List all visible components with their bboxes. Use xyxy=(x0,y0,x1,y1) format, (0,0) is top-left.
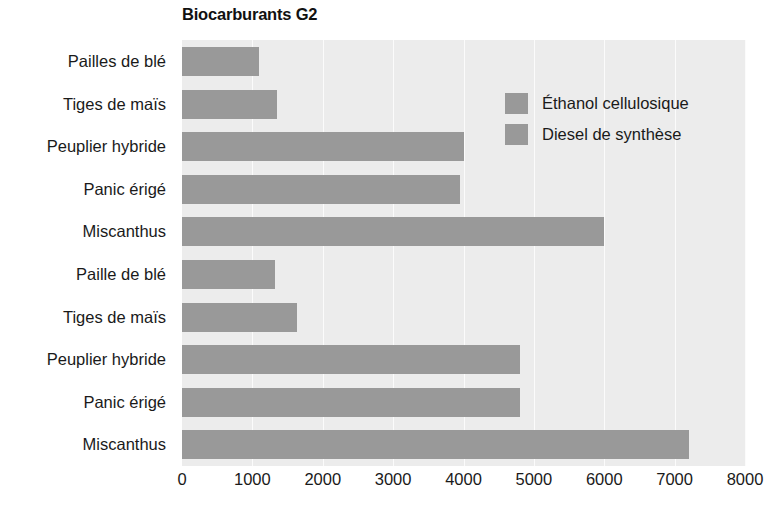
bar xyxy=(182,47,259,76)
chart-legend: Éthanol cellulosiqueDiesel de synthèse xyxy=(505,88,689,150)
bar xyxy=(182,217,604,246)
bar-row xyxy=(182,168,745,211)
category-label: Tiges de maïs xyxy=(0,83,174,126)
bar xyxy=(182,132,464,161)
legend-swatch-icon xyxy=(505,93,528,114)
category-label: Peuplier hybride xyxy=(0,338,174,381)
category-axis-labels: Pailles de bléTiges de maïsPeuplier hybr… xyxy=(0,40,174,466)
x-tick-label: 1000 xyxy=(234,470,271,489)
x-axis-tick-labels: 010002000300040005000600070008000 xyxy=(182,470,745,500)
category-label: Peuplier hybride xyxy=(0,125,174,168)
bar xyxy=(182,345,520,374)
bar-row xyxy=(182,296,745,339)
x-tick-label: 6000 xyxy=(586,470,623,489)
category-label: Miscanthus xyxy=(0,210,174,253)
category-label: Panic érigé xyxy=(0,381,174,424)
bar-chart: Biocarburants G2 Pailles de bléTiges de … xyxy=(0,0,781,522)
bar xyxy=(182,430,689,459)
bar-row xyxy=(182,40,745,83)
legend-item: Diesel de synthèse xyxy=(505,119,689,150)
gridline xyxy=(745,40,746,466)
category-label: Pailles de blé xyxy=(0,40,174,83)
bar xyxy=(182,260,275,289)
category-label: Tiges de maïs xyxy=(0,296,174,339)
category-label: Panic érigé xyxy=(0,168,174,211)
bar xyxy=(182,303,297,332)
bar xyxy=(182,388,520,417)
x-tick-label: 5000 xyxy=(516,470,553,489)
bar-row xyxy=(182,338,745,381)
bar xyxy=(182,175,460,204)
bar xyxy=(182,90,277,119)
x-tick-label: 3000 xyxy=(375,470,412,489)
x-tick-label: 7000 xyxy=(656,470,693,489)
legend-swatch-icon xyxy=(505,124,528,145)
chart-title: Biocarburants G2 xyxy=(182,5,317,24)
bar-row xyxy=(182,253,745,296)
legend-item: Éthanol cellulosique xyxy=(505,88,689,119)
bar-row xyxy=(182,423,745,466)
bar-row xyxy=(182,381,745,424)
x-tick-label: 4000 xyxy=(445,470,482,489)
category-label: Miscanthus xyxy=(0,423,174,466)
x-tick-label: 8000 xyxy=(727,470,764,489)
x-tick-label: 2000 xyxy=(304,470,341,489)
x-tick-label: 0 xyxy=(177,470,186,489)
category-label: Paille de blé xyxy=(0,253,174,296)
legend-label: Éthanol cellulosique xyxy=(542,94,689,113)
bar-row xyxy=(182,210,745,253)
legend-label: Diesel de synthèse xyxy=(542,125,681,144)
